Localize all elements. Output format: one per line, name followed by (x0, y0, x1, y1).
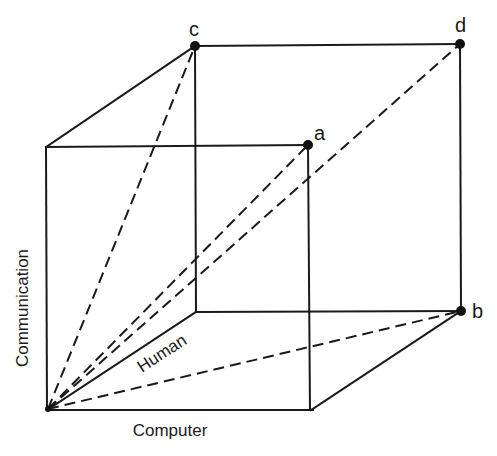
point-d-label: d (455, 14, 466, 36)
point-c (190, 41, 200, 51)
point-d (455, 39, 465, 49)
depth-edge-human-axis (47, 312, 196, 410)
front-top-edge (46, 145, 308, 147)
axis-label-computer: Computer (133, 421, 208, 440)
vector-to-b (48, 311, 461, 409)
dashed-vectors (48, 44, 461, 409)
back-right-edge (460, 44, 461, 311)
point-c-label: c (189, 18, 199, 40)
back-top-edge (195, 44, 460, 46)
vector-to-d (48, 44, 460, 409)
depth-edge-top-left (46, 46, 195, 147)
point-b-label: b (472, 300, 483, 322)
point-b (456, 306, 466, 316)
axis-label-communication: Communication (13, 249, 32, 367)
origin-point (45, 406, 51, 412)
cube-svg: a b c d Computer Communication Human (0, 0, 497, 456)
vector-to-a (48, 145, 308, 409)
point-a-label: a (314, 122, 326, 144)
depth-edge-bottom-right (311, 311, 461, 410)
back-face (195, 44, 461, 312)
axis-label-human: Human (134, 330, 190, 376)
front-left-edge (46, 147, 47, 410)
front-right-edge (308, 145, 310, 410)
point-a (303, 140, 313, 150)
back-bottom-edge (196, 311, 461, 312)
back-left-edge (195, 46, 196, 312)
cube-diagram: a b c d Computer Communication Human (0, 0, 497, 456)
